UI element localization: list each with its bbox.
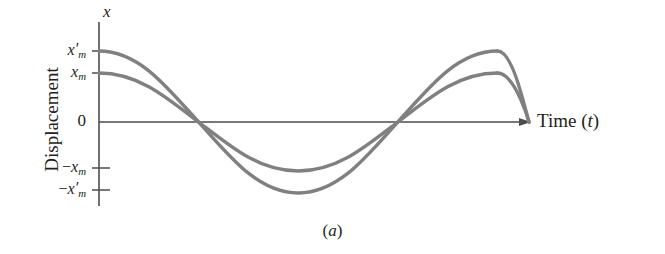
tick-sign: − <box>59 180 68 197</box>
tick-label-zero: 0 <box>34 112 86 129</box>
tick-label-negative-x-m: −xm <box>24 159 86 175</box>
tick-subscript: m <box>78 70 86 82</box>
tick-subscript: m <box>78 165 86 177</box>
tick-label-x-prime-m: x′m <box>34 42 86 58</box>
x-axis-title-close: ) <box>593 110 599 131</box>
tick-label-x-m: xm <box>34 64 86 80</box>
curve-smaller-amplitude-tail <box>497 73 529 122</box>
tick-value: 0 <box>78 111 87 130</box>
panel-caption: (a) <box>0 222 665 239</box>
tick-sign: − <box>62 158 71 175</box>
x-axis-title-text: Time ( <box>537 110 588 131</box>
tick-variable: x <box>68 180 75 197</box>
tick-label-negative-x-prime-m: −x′m <box>24 181 86 197</box>
tick-subscript: m <box>78 48 86 60</box>
x-axis-title: Time (t) <box>537 111 599 130</box>
y-axis-title: x <box>103 3 111 20</box>
panel-caption-letter: a <box>328 221 337 240</box>
tick-subscript: m <box>78 187 86 199</box>
simple-harmonic-motion-figure: x Time (t) Displacement x′m xm 0 −xm −x′… <box>0 0 665 254</box>
tick-variable: x <box>68 41 75 58</box>
